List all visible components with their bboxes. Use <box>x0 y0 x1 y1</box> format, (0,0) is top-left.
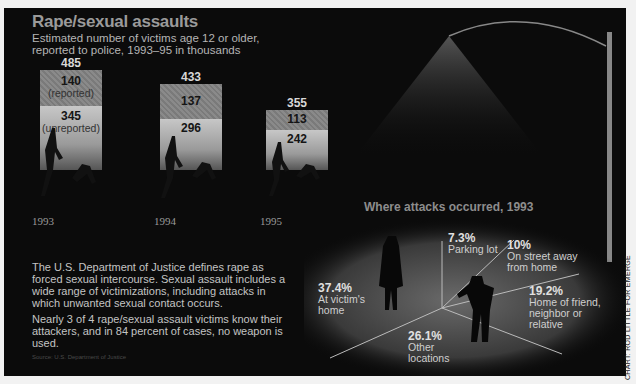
source-note: Source: U.S. Department of Justice <box>32 354 126 360</box>
location-street: 10%On street away from home <box>507 240 587 273</box>
label: Other locations <box>408 341 449 364</box>
year-1995: 1995 <box>260 215 282 227</box>
year-1993: 1993 <box>32 215 54 227</box>
location-victims-home: 37.4%At victim's home <box>318 283 388 316</box>
label: At victim's home <box>318 293 365 316</box>
label: (reported) <box>40 88 102 98</box>
location-chart-title: Where attacks occurred, 1993 <box>364 200 533 214</box>
definition-text: The U.S. Department of Justice defines r… <box>32 261 294 309</box>
total-1993: 485 <box>40 56 102 70</box>
infographic-panel: Rape/sexual assaults Estimated number of… <box>4 8 626 376</box>
location-parking-lot: 7.3%Parking lot <box>448 233 498 255</box>
chart-title: Rape/sexual assaults <box>32 12 198 32</box>
location-other: 26.1%Other locations <box>408 331 468 364</box>
value: 140 <box>61 74 81 88</box>
location-friend-home: 19.2%Home of friend, neighbor or relativ… <box>529 286 609 330</box>
label: Parking lot <box>448 243 498 255</box>
year-1994: 1994 <box>154 215 176 227</box>
chart-subtitle: Estimated number of victims age 12 or ol… <box>32 32 292 56</box>
label: Home of friend, neighbor or relative <box>529 296 601 330</box>
bar-reported-1993: 140(reported) <box>40 70 102 106</box>
chart-credit: CHART: ROD LITTLE FOR EMERGE <box>624 240 636 380</box>
bar-reported-1994: 137 <box>160 84 222 119</box>
silhouette-figures-icon <box>4 118 334 208</box>
total-1994: 433 <box>160 70 222 84</box>
fact-text: Nearly 3 of 4 rape/sexual assault victim… <box>32 313 294 349</box>
value: 137 <box>181 94 201 108</box>
label: On street away from home <box>507 250 578 273</box>
